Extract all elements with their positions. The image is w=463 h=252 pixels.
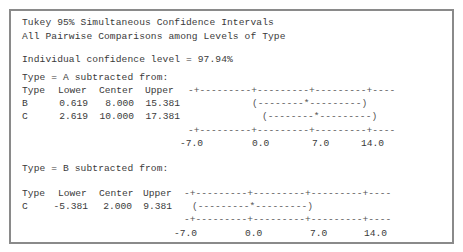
col-header-lower-b: Lower [58,188,87,199]
individual-confidence-level: Individual confidence level = 97.94% [22,54,233,65]
row-a-c-upper: 17.381 [138,111,180,122]
row-a-c-type: C [22,111,28,122]
title-line-2: All Pairwise Comparisons among Levels of… [22,31,286,42]
row-a-b-center: 8.000 [92,98,134,109]
section-b-top-axis: -+---------+---------+---------+---- [184,188,391,199]
row-b-c-lower: -5.381 [46,201,88,212]
col-header-type-b: Type [22,188,45,199]
row-a-b-type: B [22,98,28,109]
section-a-tick-1: -7.0 [180,138,203,149]
col-header-center-b: Center [99,188,134,199]
section-a-tick-3: 7.0 [312,138,329,149]
row-a-c-lower: 2.619 [50,111,88,122]
section-b-tick-4: 14.0 [364,228,387,239]
col-header-upper-b: Upper [143,188,172,199]
section-b-bottom-axis: -+---------+---------+---------+---- [184,214,391,225]
col-header-type: Type [22,85,45,96]
col-header-center: Center [99,85,134,96]
section-a-bottom-axis: -+---------+---------+---------+---- [188,125,395,136]
row-b-c-upper: 9.381 [136,201,172,212]
section-a-top-axis: -+---------+---------+---------+---- [188,85,395,96]
row-a-b-interval: (--------*---------) [252,98,367,109]
section-b-tick-2: 0.0 [245,228,262,239]
row-b-c-center: 2.000 [92,201,132,212]
row-b-c-interval: (---------*---------) [192,201,313,212]
section-b-heading: Type = B subtracted from: [22,163,168,174]
row-a-c-center: 10.000 [92,111,134,122]
section-a-tick-4: 14.0 [361,138,384,149]
title-line-1: Tukey 95% Simultaneous Confidence Interv… [22,17,274,28]
row-b-c-type: C [22,201,28,212]
col-header-lower: Lower [58,85,87,96]
row-a-b-lower: 0.619 [50,98,88,109]
section-a-tick-2: 0.0 [252,138,269,149]
section-b-tick-1: -7.0 [174,228,197,239]
row-a-b-upper: 15.381 [138,98,180,109]
section-b-tick-3: 7.0 [310,228,327,239]
section-a-heading: Type = A subtracted from: [22,72,168,83]
col-header-upper: Upper [145,85,174,96]
row-a-c-interval: (--------*---------) [262,111,377,122]
